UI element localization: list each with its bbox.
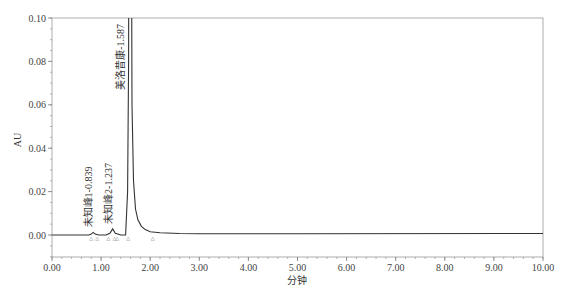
integration-marker: △ xyxy=(115,236,119,241)
y-tick-label: 0.00 xyxy=(29,230,47,241)
x-axis: 0.001.002.003.004.005.006.007.008.009.00… xyxy=(43,257,554,273)
y-tick-label: 0.02 xyxy=(29,186,47,197)
x-tick-label: 7.00 xyxy=(387,262,405,273)
x-tick-label: 1.00 xyxy=(92,262,110,273)
y-axis-title: AU xyxy=(12,132,23,147)
y-tick-label: 0.06 xyxy=(29,99,47,110)
peak-label: 美洛昔康-1.587 xyxy=(114,24,126,90)
chromatogram-chart: 0.000.020.040.060.080.10 0.001.002.003.0… xyxy=(0,0,564,299)
y-tick-label: 0.08 xyxy=(29,56,47,67)
x-tick-label: 5.00 xyxy=(289,262,307,273)
peak-labels: 未知峰1-0.839未知峰2-1.237美洛昔康-1.587 xyxy=(82,24,126,227)
x-tick-label: 3.00 xyxy=(191,262,209,273)
integration-markers: △△△△△△△ xyxy=(89,236,154,241)
x-tick-label: 10.00 xyxy=(532,262,555,273)
peak-label: 未知峰1-0.839 xyxy=(82,167,94,228)
integration-marker: △ xyxy=(95,236,99,241)
x-tick-label: 9.00 xyxy=(485,262,503,273)
y-tick-label: 0.10 xyxy=(29,13,47,24)
x-tick-label: 8.00 xyxy=(436,262,454,273)
y-axis: 0.000.020.040.060.080.10 xyxy=(29,13,53,257)
y-tick-label: 0.04 xyxy=(29,143,47,154)
integration-marker: △ xyxy=(151,236,155,241)
peak-label: 未知峰2-1.237 xyxy=(102,163,114,224)
integration-marker: △ xyxy=(126,236,130,241)
x-tick-label: 0.00 xyxy=(43,262,61,273)
integration-marker: △ xyxy=(89,236,93,241)
x-axis-title: 分钟 xyxy=(287,274,307,286)
integration-marker: △ xyxy=(107,236,111,241)
x-tick-label: 2.00 xyxy=(141,262,159,273)
x-tick-label: 4.00 xyxy=(240,262,258,273)
x-tick-label: 6.00 xyxy=(338,262,356,273)
